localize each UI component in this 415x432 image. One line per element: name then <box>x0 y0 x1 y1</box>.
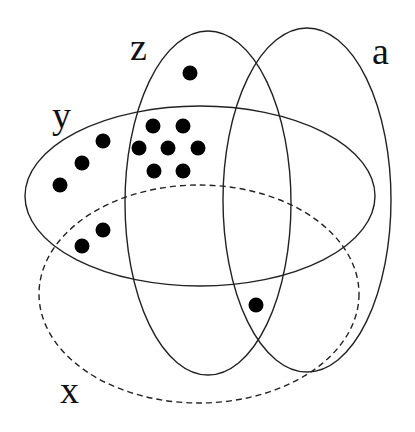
element-dot <box>249 298 264 313</box>
element-dot <box>75 156 90 171</box>
element-dot <box>146 119 161 134</box>
element-dot <box>96 223 111 238</box>
set-a-ellipse <box>223 28 391 372</box>
venn-diagram: zayx <box>0 0 415 432</box>
set-labels: zayx <box>52 26 389 411</box>
element-dot <box>191 141 206 156</box>
element-dot <box>132 141 147 156</box>
set-x-ellipse <box>39 185 359 403</box>
element-dot <box>96 134 111 149</box>
element-dot <box>176 164 191 179</box>
element-dot <box>176 119 191 134</box>
set-a-label: a <box>372 30 389 72</box>
set-ellipses <box>25 28 391 403</box>
set-y-label: y <box>52 94 71 136</box>
element-dot <box>53 178 68 193</box>
element-dot <box>75 239 90 254</box>
set-z-ellipse <box>125 31 291 375</box>
set-x-label: x <box>60 369 79 411</box>
element-dot <box>147 164 162 179</box>
set-y-ellipse <box>25 106 375 286</box>
element-dot <box>161 141 176 156</box>
set-z-label: z <box>130 26 147 68</box>
element-dot <box>183 66 198 81</box>
